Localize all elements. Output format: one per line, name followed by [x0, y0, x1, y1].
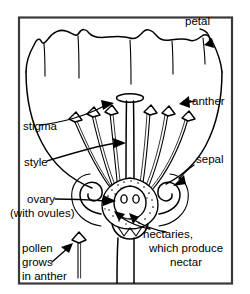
sepal-leader-line	[179, 165, 194, 179]
corolla-petals	[26, 30, 222, 188]
petal-divider-1	[44, 44, 45, 76]
label-nectaries-line1: nectaries,	[143, 228, 193, 240]
style-arrowhead	[113, 138, 126, 148]
stamen-filament-right-1b	[139, 114, 147, 190]
label-nectaries-line3: nectar	[170, 256, 202, 268]
stem-left-edge	[117, 238, 118, 283]
anther-arrowhead	[179, 96, 190, 108]
label-nectaries-line2: which produce	[148, 242, 223, 254]
petal-divider-3	[130, 40, 131, 84]
ovule-2	[133, 195, 139, 203]
stamen-filament-left-2	[92, 115, 114, 190]
label-petal: petal	[185, 15, 210, 27]
style-right-edge	[134, 101, 135, 184]
label-anther: anther	[192, 95, 225, 107]
corolla-right-wall	[166, 72, 222, 184]
flower-diagram: petal anther stigma style sepal ovary (w…	[0, 0, 250, 294]
petal-top-edge	[26, 30, 222, 72]
pistil	[117, 94, 144, 184]
stamen-icon	[72, 232, 86, 278]
label-pollen-line1: pollen	[22, 242, 53, 254]
label-sepal: sepal	[196, 153, 224, 165]
stamen-icon-anther	[72, 232, 86, 243]
label-stigma: stigma	[23, 120, 57, 132]
petal-divider-5	[203, 38, 205, 64]
petal-divider-4	[172, 41, 173, 74]
sepal-right	[158, 182, 180, 214]
anther-right-3	[182, 111, 195, 121]
diagram-canvas: petal anther stigma style sepal ovary (w…	[0, 0, 250, 294]
label-ovary-line1: ovary	[27, 193, 55, 205]
label-pollen-line2: grows	[22, 256, 53, 268]
label-ovary-line2: (with ovules)	[10, 207, 75, 219]
label-style: style	[24, 156, 48, 168]
anther-right-1	[144, 105, 157, 115]
ovule-1	[121, 195, 127, 203]
style-left-edge	[126, 101, 127, 184]
anther-left-1	[69, 112, 82, 122]
pollen-leader	[52, 243, 73, 262]
petal-divider-2	[78, 36, 79, 78]
stamen-group-right	[139, 105, 195, 190]
label-pollen-line3: in anther	[22, 270, 67, 282]
ovary-group	[102, 178, 158, 229]
pollen-arrowhead	[61, 243, 73, 253]
petal-leader	[200, 29, 214, 48]
anther-right-2	[162, 106, 175, 116]
stigma-head	[117, 94, 144, 102]
